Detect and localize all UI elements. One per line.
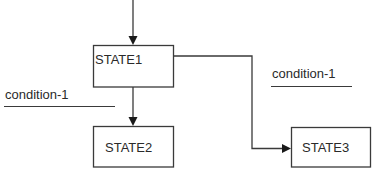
transition-state1-to-state2 [129,87,138,126]
state-diagram: STATE1 STATE2 STATE3 condition-1 conditi… [0,0,372,171]
arrowhead-down-icon [129,36,138,45]
state3-node[interactable]: STATE3 [292,128,371,168]
condition-left: condition-1 [4,87,115,107]
condition-right: condition-1 [271,66,352,87]
state2-node[interactable]: STATE2 [94,127,174,168]
state3-label: STATE3 [302,140,349,155]
transition-elbow-line [174,56,284,149]
entry-arrow [129,0,138,45]
condition-left-label: condition-1 [5,87,69,102]
state2-label: STATE2 [105,140,152,155]
condition-right-label: condition-1 [272,66,336,81]
arrowhead-down-icon [129,117,138,126]
state1-node[interactable]: STATE1 [94,46,174,88]
arrowhead-right-icon [282,144,291,153]
state1-label: STATE1 [95,52,142,67]
